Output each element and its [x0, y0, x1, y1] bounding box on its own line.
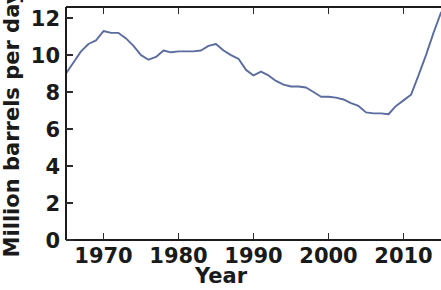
y-tick-label: 6: [45, 118, 60, 142]
plot-area-background: [66, 7, 441, 240]
y-tick-label: 2: [45, 192, 60, 216]
x-tick-label: 2010: [374, 244, 432, 268]
line-chart: 024681012 19701980199020002010 Year Mill…: [0, 0, 441, 290]
x-tick-label: 2000: [299, 244, 357, 268]
y-tick-label: 10: [31, 44, 60, 68]
x-axis-tick-labels: 19701980199020002010: [74, 244, 432, 268]
y-axis-tick-labels: 024681012: [31, 7, 60, 253]
y-axis-title: Million barrels per day: [0, 0, 24, 257]
x-axis-title: Year: [194, 264, 248, 288]
y-tick-label: 12: [31, 7, 60, 31]
y-tick-label: 4: [45, 155, 60, 179]
y-tick-label: 8: [45, 81, 60, 105]
y-tick-label: 0: [45, 229, 60, 253]
x-tick-label: 1970: [74, 244, 132, 268]
chart-figure: 024681012 19701980199020002010 Year Mill…: [0, 0, 441, 290]
